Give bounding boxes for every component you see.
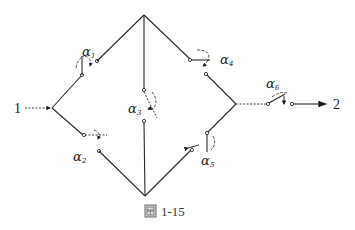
- switch-rotation-arrow-icon: [203, 60, 208, 66]
- switch-rotation-arrow-icon: [94, 130, 99, 139]
- switch-motion-arc-icon: [152, 92, 156, 110]
- switch-label: α: [220, 52, 229, 67]
- switch-label: α: [73, 149, 82, 164]
- switch-label-subscript: 6: [275, 84, 280, 92]
- wire-segment: [99, 151, 145, 196]
- switch-rotation-arrow-icon: [148, 108, 152, 109]
- switch-alpha-1: α 1: [52, 15, 144, 108]
- switch-alpha-5: α 5: [145, 104, 236, 196]
- wire-segment: [52, 108, 83, 135]
- output-node-label: 2: [333, 97, 340, 112]
- wire-segment: [145, 150, 191, 196]
- switch-alpha-2: α 2: [52, 108, 145, 196]
- wire-segment: [207, 75, 236, 104]
- figure-caption: 1-15: [145, 204, 185, 219]
- switch-alpha-6: α 6: [236, 76, 294, 106]
- figure-caption-number: 1-15: [161, 204, 185, 219]
- switch-contact-icon: [190, 148, 193, 151]
- switch-label-subscript: 5: [210, 161, 215, 169]
- switch-label: α: [82, 44, 91, 59]
- switch-contact-icon: [290, 102, 293, 105]
- output-node: 2: [294, 97, 340, 112]
- switch-label-subscript: 2: [81, 157, 87, 165]
- switch-contact-icon: [142, 88, 145, 91]
- switch-rotation-arrow-icon: [188, 145, 199, 148]
- wire-segment: [97, 15, 144, 61]
- switch-label: α: [201, 153, 210, 168]
- switch-contact-icon: [142, 119, 145, 122]
- wire-segment: [208, 104, 236, 132]
- switch-alpha-3: α 3: [128, 15, 157, 196]
- switch-alpha-4: α 4: [144, 15, 236, 104]
- switch-motion-arc-icon: [197, 50, 209, 60]
- wire-segment: [144, 123, 145, 196]
- wire-segment: [52, 75, 82, 108]
- switch-label: α: [266, 76, 275, 91]
- bridge-switch-network-diagram: 1 α 1 α 2 α 3: [0, 0, 355, 230]
- input-node: 1: [14, 101, 50, 116]
- figure-glyph-icon: [145, 205, 156, 217]
- switch-label-subscript: 4: [228, 60, 233, 68]
- wire-segment: [144, 15, 190, 59]
- input-node-label: 1: [14, 101, 21, 116]
- switch-blade-icon: [269, 94, 285, 103]
- switch-label: α: [128, 101, 137, 116]
- switch-label-subscript: 1: [91, 52, 95, 60]
- switch-motion-arc-icon: [211, 136, 215, 150]
- switch-label-subscript: 3: [137, 109, 142, 117]
